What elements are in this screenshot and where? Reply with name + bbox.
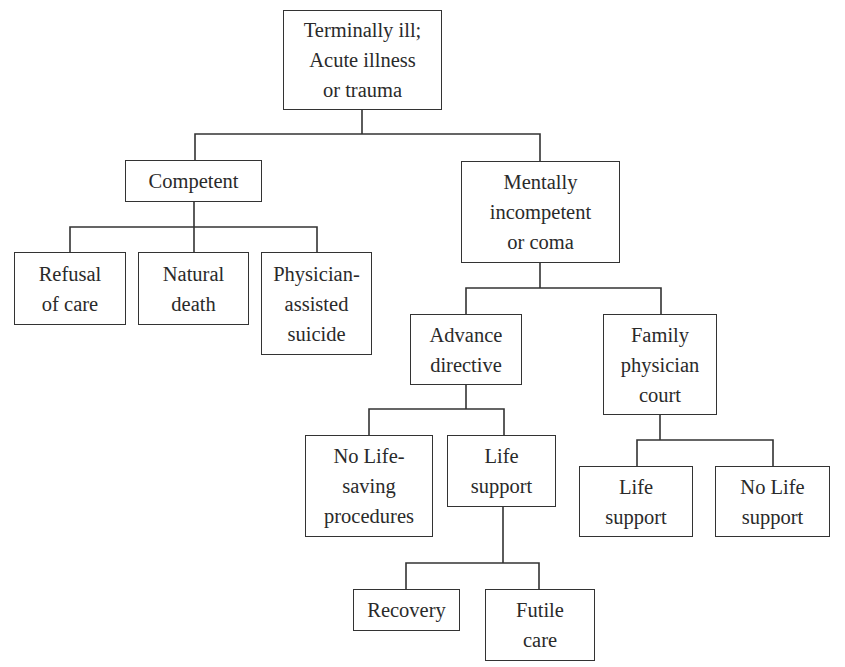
node-text: Recovery [367,595,446,625]
node-text: care [523,625,557,655]
node-text: support [742,502,804,532]
node-physician-assisted-suicide: Physician- assisted suicide [261,252,372,355]
node-advance-directive: Advance directive [410,314,522,385]
node-text: Futile [516,595,564,625]
node-recovery: Recovery [353,589,460,631]
node-text: or trauma [323,75,402,105]
node-text: incompetent [490,197,591,227]
node-text: death [171,289,215,319]
node-text: Family [631,320,689,350]
node-text: or coma [507,227,574,257]
node-text: of care [42,289,98,319]
node-futile-care: Futile care [485,589,595,661]
node-life-support-family: Life support [579,466,693,537]
node-text: support [471,471,533,501]
node-text: Mentally [503,167,577,197]
node-text: Terminally ill; [304,15,422,45]
node-text: Physician- [273,259,360,289]
node-terminally-ill: Terminally ill; Acute illness or trauma [283,10,442,110]
node-text: physician [621,350,700,380]
node-text: Natural [163,259,224,289]
node-family-physician-court: Family physician court [603,314,717,415]
node-text: Advance [430,320,503,350]
node-text: Life [484,441,518,471]
node-mentally-incompetent: Mentally incompetent or coma [461,161,620,263]
node-text: court [639,380,681,410]
node-natural-death: Natural death [138,252,249,325]
node-text: support [605,502,667,532]
node-refusal-of-care: Refusal of care [14,252,126,325]
node-no-life-support: No Life support [715,466,830,537]
node-life-support-directive: Life support [447,435,556,507]
node-text: Competent [149,166,239,196]
node-text: Life [619,472,653,502]
node-text: No Life- [333,441,404,471]
node-text: Acute illness [309,45,415,75]
node-text: procedures [324,501,414,531]
node-no-life-saving-procedures: No Life- saving procedures [305,435,433,537]
node-text: suicide [287,319,345,349]
node-competent: Competent [125,160,262,202]
node-text: saving [342,471,396,501]
node-text: directive [430,350,502,380]
node-text: Refusal [39,259,102,289]
node-text: No Life [740,472,804,502]
node-text: assisted [285,289,349,319]
